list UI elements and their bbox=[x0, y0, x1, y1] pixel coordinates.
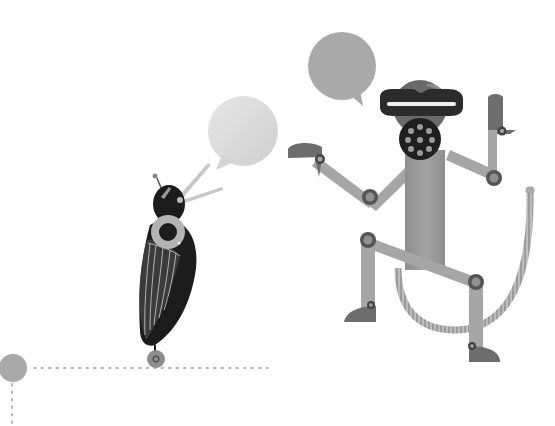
speech-bubble-monkey bbox=[308, 32, 376, 106]
scene-canvas bbox=[0, 0, 555, 426]
speech-bubble-beetle bbox=[208, 96, 278, 170]
timeline-node bbox=[0, 354, 27, 382]
beetle-robot bbox=[139, 163, 223, 368]
monkey-robot bbox=[288, 80, 531, 362]
